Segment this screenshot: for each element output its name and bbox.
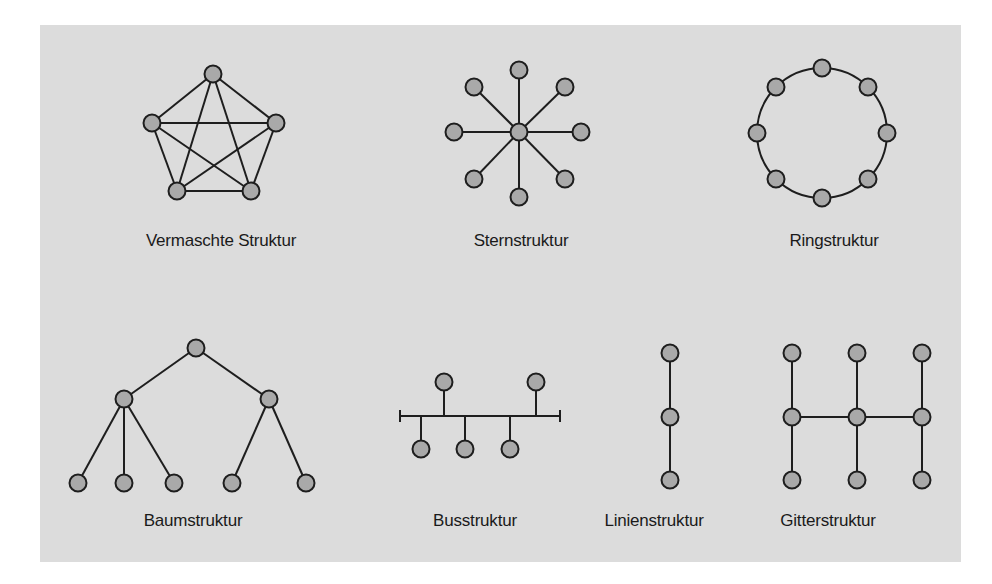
connection-line xyxy=(232,399,269,483)
network-node xyxy=(914,472,931,489)
topology-grid xyxy=(784,345,931,489)
network-node xyxy=(413,441,430,458)
network-topologies-figure xyxy=(0,0,992,584)
label-tree: Baumstruktur xyxy=(144,511,243,531)
connection-line xyxy=(124,399,174,483)
connection-line xyxy=(177,123,276,191)
network-node xyxy=(261,391,278,408)
network-node xyxy=(502,441,519,458)
network-node xyxy=(814,60,831,77)
connection-line xyxy=(78,399,124,483)
topology-ring xyxy=(749,60,896,207)
network-node xyxy=(814,190,831,207)
connection-line xyxy=(177,74,213,191)
topology-bus xyxy=(400,374,560,458)
network-node xyxy=(914,409,931,426)
label-grid: Gitterstruktur xyxy=(780,511,875,531)
network-node xyxy=(557,171,574,188)
network-node xyxy=(849,409,866,426)
network-node xyxy=(784,472,801,489)
network-node xyxy=(849,472,866,489)
network-node xyxy=(144,115,161,132)
connection-line xyxy=(474,87,519,132)
network-node xyxy=(860,79,877,96)
connection-line xyxy=(474,132,519,179)
connection-line xyxy=(196,348,269,399)
edges xyxy=(400,382,560,449)
network-node xyxy=(457,441,474,458)
network-node xyxy=(768,79,785,96)
connection-line xyxy=(519,87,565,132)
label-ring: Ringstruktur xyxy=(789,231,878,251)
network-node xyxy=(662,345,679,362)
connection-line xyxy=(269,399,306,483)
figure-canvas: Vermaschte Struktur Sternstruktur Ringst… xyxy=(0,0,992,584)
network-node xyxy=(116,475,133,492)
network-node xyxy=(446,124,463,141)
network-node xyxy=(749,125,766,142)
nodes xyxy=(749,60,896,207)
network-node xyxy=(662,472,679,489)
network-node xyxy=(188,340,205,357)
network-node xyxy=(205,66,222,83)
topology-mesh xyxy=(144,66,285,200)
edges xyxy=(152,74,276,191)
network-node xyxy=(169,183,186,200)
connection-line xyxy=(519,132,565,179)
connection-line xyxy=(251,123,276,191)
network-node xyxy=(511,189,528,206)
connection-line xyxy=(213,74,251,191)
label-mesh: Vermaschte Struktur xyxy=(146,231,296,251)
network-node xyxy=(914,345,931,362)
network-node xyxy=(879,125,896,142)
label-line: Linienstruktur xyxy=(604,511,703,531)
topology-line xyxy=(662,345,679,489)
network-node xyxy=(573,124,590,141)
network-node xyxy=(298,475,315,492)
label-bus: Busstruktur xyxy=(433,511,517,531)
label-star: Sternstruktur xyxy=(474,231,569,251)
network-node xyxy=(784,409,801,426)
network-node xyxy=(70,475,87,492)
network-node xyxy=(662,409,679,426)
network-node xyxy=(466,79,483,96)
nodes xyxy=(446,62,590,206)
network-node xyxy=(528,374,545,391)
network-node xyxy=(243,183,260,200)
network-node xyxy=(116,391,133,408)
network-node xyxy=(849,345,866,362)
network-node xyxy=(268,115,285,132)
connection-line xyxy=(152,123,177,191)
connection-line xyxy=(152,74,213,123)
connection-line xyxy=(213,74,276,123)
connection-line xyxy=(152,123,251,191)
connection-line xyxy=(124,348,196,399)
network-node xyxy=(511,124,528,141)
network-node xyxy=(466,171,483,188)
network-node xyxy=(768,171,785,188)
nodes xyxy=(70,340,315,492)
network-node xyxy=(557,79,574,96)
network-node xyxy=(436,374,453,391)
network-node xyxy=(860,171,877,188)
network-node xyxy=(511,62,528,79)
edges xyxy=(78,348,306,483)
topology-star xyxy=(446,62,590,206)
network-node xyxy=(166,475,183,492)
network-node xyxy=(224,475,241,492)
topology-tree xyxy=(70,340,315,492)
network-node xyxy=(784,345,801,362)
